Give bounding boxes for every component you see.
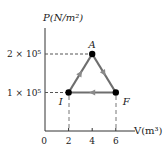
x-axis-label: V(m³) [133,125,163,136]
x-tick-label: 6 [113,136,119,146]
point-A [89,51,95,57]
point-label-A: A [88,39,96,50]
origin-label: 0 [41,136,47,146]
y-tick-label: 1 × 10⁵ [7,88,41,98]
point-label-I: I [58,96,64,107]
x-tick-label: 4 [89,136,95,146]
point-label-F: F [122,96,131,107]
point-I [65,89,71,95]
point-F [113,89,119,95]
y-tick-label: 2 × 10⁵ [7,49,41,59]
direction-arrow-icon [89,90,95,96]
y-axis-label: P(N/m²) [42,12,83,23]
x-tick-label: 2 [66,136,72,146]
pv-diagram: P(N/m²) V(m³) 0 246 1 × 10⁵2 × 10⁵ AIF [0,0,168,150]
